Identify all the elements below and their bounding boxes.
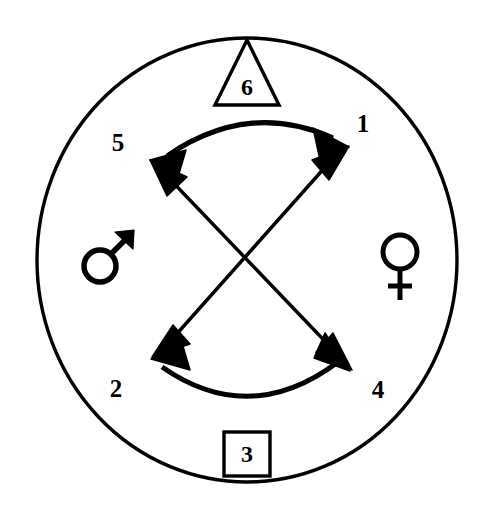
- mars-symbol-icon: [84, 230, 134, 282]
- node-label-2: 2: [110, 375, 123, 402]
- node-label-4: 4: [372, 376, 385, 403]
- diagonal-shaft-1-to-2: [166, 156, 335, 346]
- node-label-5: 5: [112, 129, 125, 156]
- diagonal-shaft-5-to-4: [163, 172, 341, 358]
- triangle-marker-label: 6: [241, 74, 253, 100]
- square-marker-label: 3: [241, 441, 253, 467]
- node-label-1: 1: [357, 110, 370, 137]
- venus-symbol-icon: [383, 235, 417, 300]
- diagram-canvas: 6 3 1 2 4 5: [0, 0, 484, 509]
- cycle-diagram: 6 3 1 2 4 5: [0, 0, 484, 509]
- upper-curved-arrow-shaft: [167, 123, 333, 156]
